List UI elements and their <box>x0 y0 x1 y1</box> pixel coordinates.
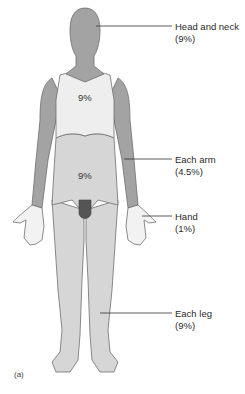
label-value: (9%) <box>175 33 239 45</box>
left-hand <box>13 205 44 245</box>
abdomen-percentage: 9% <box>78 170 92 181</box>
label-value: (9%) <box>175 320 212 332</box>
label-text: Hand <box>175 211 198 223</box>
label-text: Head and neck <box>175 21 239 33</box>
label-each-arm: Each arm (4.5%) <box>175 154 216 178</box>
label-hand: Hand (1%) <box>175 211 198 235</box>
label-value: (4.5%) <box>175 166 216 178</box>
label-text: Each arm <box>175 154 216 166</box>
right-leg <box>86 200 118 372</box>
label-value: (1%) <box>175 223 198 235</box>
label-head-and-neck: Head and neck (9%) <box>175 21 239 45</box>
right-hand <box>126 205 156 245</box>
panel-label: (a) <box>14 370 24 379</box>
left-leg <box>52 200 84 372</box>
body-diagram <box>0 0 245 394</box>
label-text: Each leg <box>175 308 212 320</box>
label-each-leg: Each leg (9%) <box>175 308 212 332</box>
rule-of-nines-figure: 9% 9% Head and neck (9%) Each arm (4.5%)… <box>0 0 245 394</box>
head-and-neck <box>66 8 104 82</box>
chest-percentage: 9% <box>78 92 92 103</box>
genitals <box>79 200 91 219</box>
